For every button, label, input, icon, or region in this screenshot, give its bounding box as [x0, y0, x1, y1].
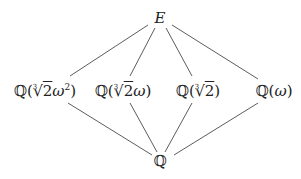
node-q-cbrt2-omega: ℚ(3√2ω) — [95, 82, 152, 100]
node-E-label: E — [155, 9, 166, 27]
edge-n1-to-Q — [68, 103, 152, 155]
edge-E-to-n2 — [130, 28, 155, 76]
edge-n4-to-Q — [174, 103, 258, 155]
edge-E-to-n4 — [172, 25, 258, 79]
node-Q: ℚ — [153, 152, 166, 170]
node-q-cbrt2-omega2: ℚ(3√2ω2) — [14, 82, 76, 100]
edge-n3-to-Q — [165, 103, 192, 152]
node-E: E — [155, 9, 166, 27]
edge-E-to-n1 — [70, 25, 148, 76]
node-q-cbrt2: ℚ(3√2) — [176, 82, 220, 100]
edge-n2-to-Q — [130, 103, 157, 152]
node-q-omega: ℚ(ω) — [255, 82, 292, 100]
node-Q-label: ℚ — [153, 152, 166, 170]
